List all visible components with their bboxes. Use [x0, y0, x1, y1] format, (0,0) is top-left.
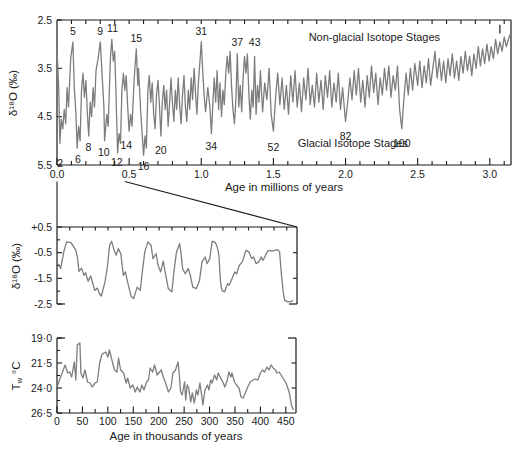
tick-label: 26·5: [31, 407, 52, 419]
region-label-glacial: Glacial Isotope Stages: [298, 137, 409, 149]
tick-label: 350: [226, 415, 244, 427]
region-label-nonglacial: Non-glacial Isotope Stages: [309, 31, 441, 43]
middle-yaxis-title: δ¹⁸O (‰): [10, 243, 22, 290]
stage-label: 6: [75, 153, 81, 165]
tick-label: 450: [277, 415, 295, 427]
top-curve: [57, 35, 510, 156]
tick-label: 50: [77, 415, 89, 427]
stage-label: 37: [231, 36, 243, 48]
stage-label: 15: [131, 32, 143, 44]
stage-label: 20: [155, 144, 167, 156]
tick-label: 1.0: [194, 168, 209, 180]
tick-label: 100: [99, 415, 117, 427]
tick-label: -1.5: [34, 272, 52, 284]
tick-label: 21·5: [31, 357, 52, 369]
tick-label: 3.0: [482, 168, 497, 180]
figure-canvas: 0.00.51.01.52.02.53.02.53.54.55.55911153…: [0, 0, 529, 463]
top-yaxis-title: δ¹⁸O (‰): [7, 70, 19, 117]
tick-label: 2.0: [338, 168, 353, 180]
stage-label: 2: [57, 157, 63, 169]
tick-label: 300: [201, 415, 219, 427]
stage-label: 8: [86, 141, 92, 153]
stage-label: 11: [107, 22, 118, 34]
tick-label: 4.5: [37, 110, 52, 122]
bottom-chart: 05010015020025030035040045019·021·524·02…: [10, 332, 296, 443]
stage-label: 34: [206, 140, 218, 152]
stage-label: 43: [249, 36, 261, 48]
middle-curve: [59, 241, 293, 302]
tick-label: 24·0: [31, 382, 52, 394]
tick-label: 1.5: [266, 168, 281, 180]
bottom-yaxis-title: Tw °C: [10, 362, 24, 391]
stage-label: 31: [195, 25, 207, 37]
stage-label: 14: [120, 139, 132, 151]
stage-label: 16: [138, 160, 150, 172]
tick-label: 150: [125, 415, 143, 427]
middle-chart: +0.5-0.5-1.5-2.5δ¹⁸O (‰): [10, 221, 297, 310]
tick-label: 200: [150, 415, 168, 427]
tick-label: -0.5: [34, 246, 52, 258]
tick-label: 0.5: [122, 168, 137, 180]
paleoclimate-figure: 0.00.51.01.52.02.53.02.53.54.55.55911153…: [0, 0, 529, 463]
tick-label: 400: [252, 415, 270, 427]
tick-label: 2.5: [37, 14, 52, 26]
bottom-curve: [57, 343, 294, 410]
stage-label: 9: [97, 25, 103, 37]
stage-label: 5: [70, 25, 76, 37]
tick-label: 19·0: [31, 332, 52, 344]
tick-label: 3.5: [37, 62, 52, 74]
stage-label: 12: [111, 156, 123, 168]
tick-label: 5.5: [37, 159, 52, 171]
tick-label: +0.5: [31, 221, 52, 233]
top-xaxis-title: Age in millions of years: [225, 181, 343, 193]
tick-label: 250: [175, 415, 193, 427]
top-chart: 0.00.51.01.52.02.53.02.53.54.55.55911153…: [7, 14, 511, 194]
tick-label: -2.5: [34, 298, 52, 310]
tick-label: 0: [54, 415, 60, 427]
stage-label: 52: [268, 141, 280, 153]
bottom-xaxis-title: Age in thousands of years: [110, 430, 243, 442]
tick-label: 2.5: [410, 168, 425, 180]
stage-label: 10: [98, 146, 110, 158]
